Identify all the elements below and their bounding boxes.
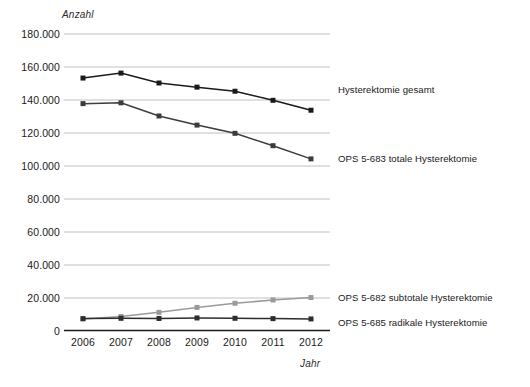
data-point-marker: [119, 316, 124, 321]
y-axis-caption: Anzahl: [62, 9, 94, 20]
x-tick-label: 2008: [147, 336, 171, 348]
data-point-marker: [195, 315, 200, 320]
data-point-marker: [157, 316, 162, 321]
x-tick-label: 2011: [261, 336, 284, 348]
series-label-1: Hysterektomie gesamt: [338, 84, 434, 95]
data-point-marker: [233, 89, 238, 94]
x-tick-label: 2006: [71, 336, 95, 348]
data-point-marker: [81, 316, 86, 321]
series-label-3: OPS 5-682 subtotale Hysterektomie: [338, 292, 493, 303]
data-point-marker: [233, 301, 238, 306]
series-2: [81, 100, 314, 161]
data-point-marker: [271, 297, 276, 302]
gridlines: [64, 34, 330, 298]
data-point-marker: [119, 71, 124, 76]
x-axis-caption: Jahr: [300, 358, 320, 369]
y-tick-label: 40.000: [2, 259, 60, 271]
data-point-marker: [195, 85, 200, 90]
data-point-marker: [81, 101, 86, 106]
series-label-2: OPS 5-683 totale Hysterektomie: [338, 153, 477, 164]
data-point-marker: [157, 114, 162, 119]
data-point-marker: [309, 156, 314, 161]
y-tick-label: 160.000: [2, 61, 60, 73]
data-point-marker: [233, 131, 238, 136]
data-point-marker: [271, 143, 276, 148]
data-point-marker: [157, 310, 162, 315]
data-point-marker: [195, 123, 200, 128]
y-tick-label: 140.000: [2, 94, 60, 106]
y-tick-label: 120.000: [2, 127, 60, 139]
x-tick-label: 2010: [223, 336, 247, 348]
chart-container: Anzahl Jahr 020.00040.00060.00080.000100…: [0, 0, 530, 387]
data-point-marker: [309, 295, 314, 300]
x-tick-label: 2012: [299, 336, 323, 348]
data-point-marker: [157, 81, 162, 86]
data-point-marker: [119, 100, 124, 105]
y-tick-label: 80.000: [2, 193, 60, 205]
x-tick-label: 2009: [185, 336, 209, 348]
data-point-marker: [195, 305, 200, 310]
data-point-marker: [271, 98, 276, 103]
data-point-marker: [309, 316, 314, 321]
y-tick-label: 20.000: [2, 292, 60, 304]
series-label-4: OPS 5-685 radikale Hysterektomie: [338, 317, 487, 328]
y-tick-label: 60.000: [2, 226, 60, 238]
plot-area: [0, 0, 530, 387]
series-lines: [81, 71, 314, 322]
y-axis-tick-labels: 020.00040.00060.00080.000100.000120.0001…: [0, 0, 60, 387]
series-1: [81, 71, 314, 113]
y-tick-label: 180.000: [2, 28, 60, 40]
data-point-marker: [309, 108, 314, 113]
x-tick-label: 2007: [109, 336, 133, 348]
series-line: [83, 103, 311, 159]
data-point-marker: [233, 316, 238, 321]
data-point-marker: [271, 316, 276, 321]
y-tick-label: 0: [2, 325, 60, 337]
series-line: [83, 73, 311, 110]
y-tick-label: 100.000: [2, 160, 60, 172]
data-point-marker: [81, 76, 86, 81]
